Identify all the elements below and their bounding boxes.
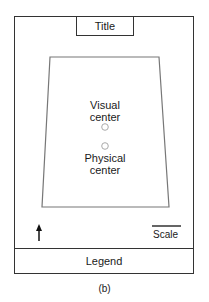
visual-center-label: Visual center — [65, 99, 145, 123]
map-outline — [42, 57, 169, 207]
physical-center-label: Physical center — [65, 152, 145, 176]
title-box: Title — [76, 16, 134, 36]
physical-center-label-line2: center — [65, 164, 145, 176]
visual-center-label-line2: center — [65, 111, 145, 123]
north-arrow-icon — [36, 224, 42, 241]
physical-center-marker — [102, 143, 109, 150]
scale-label: Scale — [153, 229, 178, 240]
visual-center-label-line1: Visual — [65, 99, 145, 111]
figure-caption: (b) — [0, 283, 209, 294]
physical-center-label-line1: Physical — [65, 152, 145, 164]
visual-center-marker — [102, 124, 109, 131]
legend-label: Legend — [14, 249, 194, 274]
